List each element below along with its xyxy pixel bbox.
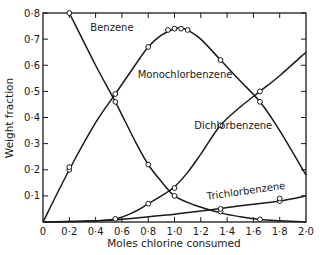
monochlorbenzene-marker <box>258 99 263 104</box>
y-tick-label: 0·1 <box>24 190 40 201</box>
x-tick-label: 0·8 <box>140 226 156 237</box>
monochlorbenzene-marker <box>185 28 190 33</box>
x-tick-label: 1·6 <box>245 226 261 237</box>
x-tick-label: 0·6 <box>114 226 130 237</box>
y-axis-label: Weight fraction <box>3 78 15 158</box>
monochlorbenzene-marker <box>113 92 118 97</box>
monochlorbenzene-marker <box>67 165 72 170</box>
curve-labels: BenzeneMonochlorbenzeneDichlorbenzeneTri… <box>90 22 286 202</box>
benzene-marker <box>67 11 72 16</box>
benzene-marker <box>258 217 263 222</box>
y-tick-label: 0·3 <box>24 138 40 149</box>
x-tick-label: 0·4 <box>88 226 104 237</box>
monochlorbenzene-marker <box>146 45 151 50</box>
benzene-marker <box>172 193 177 198</box>
benzene-marker <box>146 162 151 167</box>
benzene-marker <box>113 99 118 104</box>
y-tick-label: 0·2 <box>24 164 40 175</box>
trichlorbenzene-marker <box>218 207 223 212</box>
monochlorbenzene-marker <box>172 26 177 31</box>
y-tick-label: 0·6 <box>24 60 40 71</box>
dichlorbenzene-marker <box>258 89 263 94</box>
monochlorbenzene-label: Monochlorbenzene <box>138 69 233 80</box>
x-tick-label: 0·2 <box>61 226 77 237</box>
trichlorbenzene-label: Trichlorbenzene <box>205 180 286 202</box>
x-tick-label: 1·4 <box>219 226 235 237</box>
monochlorbenzene-marker <box>166 28 171 33</box>
benzene-label: Benzene <box>90 22 133 33</box>
chart: 0·10·20·30·40·50·60·70·8 00·20·40·60·81·… <box>0 0 320 255</box>
x-tick-label: 2·0 <box>298 226 314 237</box>
x-tick-label: 1·2 <box>193 226 209 237</box>
y-axis-ticks: 0·10·20·30·40·50·60·70·8 <box>24 8 306 202</box>
monochlorbenzene-marker <box>218 58 223 63</box>
dichlorbenzene-marker <box>172 186 177 191</box>
y-tick-label: 0·4 <box>24 112 40 123</box>
y-tick-label: 0·7 <box>24 34 40 45</box>
dichlorbenzene-label: Dichlorbenzene <box>194 120 272 131</box>
x-tick-label: 0 <box>40 226 46 237</box>
trichlorbenzene-marker <box>277 196 282 201</box>
dichlorbenzene-marker <box>113 216 118 221</box>
monochlorbenzene-marker <box>179 26 184 31</box>
x-tick-label: 1·0 <box>167 226 183 237</box>
dichlorbenzene-marker <box>146 201 151 206</box>
x-axis-label: Moles chlorine consumed <box>107 237 240 249</box>
x-axis-ticks: 00·20·40·60·81·01·21·41·61·82·0 <box>40 13 314 237</box>
y-tick-label: 0·5 <box>24 86 40 97</box>
y-tick-label: 0·8 <box>24 8 40 19</box>
x-tick-label: 1·8 <box>272 226 288 237</box>
